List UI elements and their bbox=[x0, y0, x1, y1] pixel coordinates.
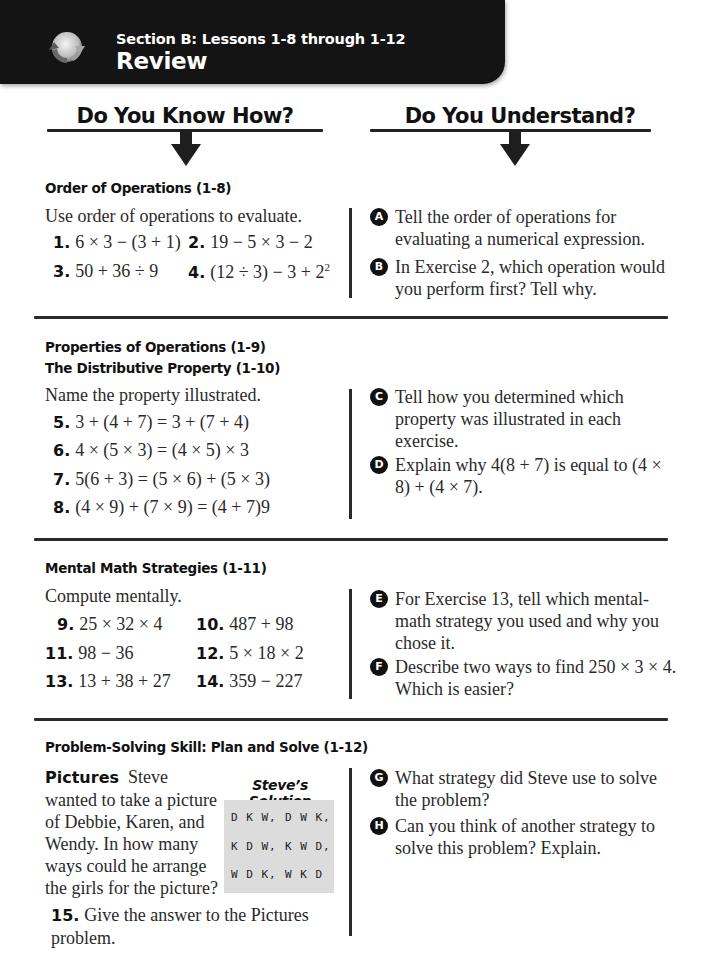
instruction: Compute mentally. bbox=[45, 586, 182, 607]
letter-badge: F bbox=[370, 658, 388, 676]
solution-item: W K D bbox=[285, 868, 323, 881]
solution-item: W D K, bbox=[231, 868, 277, 881]
exercise-12: 12.5 × 18 × 2 bbox=[196, 643, 304, 664]
instruction: Use order of operations to evaluate. bbox=[45, 206, 302, 227]
section-divider bbox=[34, 316, 668, 319]
letter-badge: G bbox=[370, 769, 388, 787]
exercise-1: 1.6 × 3 − (3 + 1) bbox=[53, 232, 181, 253]
solution-box: D K W, D W K, K D W, K W D, W D K, W K D bbox=[224, 800, 334, 893]
exercise-15: 15.Give the answer to the Pictures probl… bbox=[51, 904, 321, 949]
section-header-banner: Section B: Lessons 1-8 through 1-12 Revi… bbox=[0, 0, 505, 84]
column-divider bbox=[349, 768, 352, 936]
letter-badge: A bbox=[370, 208, 388, 226]
exercise-5: 5.3 + (4 + 7) = 3 + (7 + 4) bbox=[53, 412, 249, 433]
section-divider bbox=[34, 718, 668, 721]
exercise-14: 14.359 − 227 bbox=[196, 671, 303, 692]
exercise-9: 9.25 × 32 × 4 bbox=[57, 614, 163, 635]
section-title-properties: Properties of Operations (1-9) bbox=[45, 337, 266, 358]
section-title-distributive: The Distributive Property (1-10) bbox=[45, 358, 280, 379]
question-b: BIn Exercise 2, which operation would yo… bbox=[370, 256, 680, 300]
exercise-6: 6.4 × (5 × 3) = (4 × 5) × 3 bbox=[53, 440, 249, 461]
letter-badge: E bbox=[370, 590, 388, 608]
question-a: ATell the order of operations for evalua… bbox=[370, 206, 680, 250]
section-title-mental-math: Mental Math Strategies (1-11) bbox=[45, 558, 267, 579]
column-heading-understand: Do You Understand? bbox=[370, 104, 670, 128]
letter-badge: D bbox=[370, 456, 388, 474]
question-h: HCan you think of another strategy to so… bbox=[370, 815, 680, 859]
page-title: Review bbox=[116, 48, 207, 74]
section-subtitle: Section B: Lessons 1-8 through 1-12 bbox=[116, 31, 405, 47]
letter-badge: B bbox=[370, 258, 388, 276]
instruction: Name the property illustrated. bbox=[45, 385, 261, 406]
down-arrow-icon bbox=[500, 130, 530, 166]
exercise-2: 2.19 − 5 × 3 − 2 bbox=[188, 232, 313, 253]
exercise-11: 11.98 − 36 bbox=[45, 643, 134, 664]
review-cycle-icon bbox=[47, 28, 87, 68]
solution-item: D W K, bbox=[285, 811, 331, 824]
section-divider bbox=[34, 538, 668, 541]
exercise-10: 10.487 + 98 bbox=[196, 614, 294, 635]
letter-badge: C bbox=[370, 388, 388, 406]
question-g: GWhat strategy did Steve use to solve th… bbox=[370, 767, 680, 811]
column-divider bbox=[349, 589, 352, 699]
problem-label: Pictures bbox=[45, 768, 119, 787]
question-c: CTell how you determined which property … bbox=[370, 386, 680, 452]
question-f: FDescribe two ways to find 250 × 3 × 4. … bbox=[370, 656, 680, 700]
exercise-4: 4.(12 ÷ 3) − 3 + 22 bbox=[188, 261, 330, 283]
column-divider bbox=[349, 208, 352, 298]
column-divider bbox=[349, 389, 352, 519]
solution-item: K W D, bbox=[285, 840, 331, 853]
exercise-13: 13.13 + 38 + 27 bbox=[45, 671, 171, 692]
section-title-problem-solving: Problem-Solving Skill: Plan and Solve (1… bbox=[45, 737, 368, 758]
exercise-7: 7.5(6 + 3) = (5 × 6) + (5 × 3) bbox=[53, 469, 270, 490]
pictures-problem: Pictures Steve wanted to take a picture … bbox=[45, 766, 220, 899]
exercise-3: 3.50 + 36 ÷ 9 bbox=[53, 261, 158, 282]
question-e: EFor Exercise 13, tell which mental-math… bbox=[370, 588, 680, 654]
exercise-8: 8.(4 × 9) + (7 × 9) = (4 + 7)9 bbox=[53, 497, 270, 518]
letter-badge: H bbox=[370, 817, 388, 835]
down-arrow-icon bbox=[171, 130, 201, 166]
solution-item: K D W, bbox=[231, 840, 277, 853]
column-heading-know-how: Do You Know How? bbox=[45, 104, 325, 128]
solution-item: D K W, bbox=[231, 811, 277, 824]
question-d: DExplain why 4(8 + 7) is equal to (4 × 8… bbox=[370, 454, 680, 498]
section-title-order-of-operations: Order of Operations (1-8) bbox=[45, 178, 231, 199]
